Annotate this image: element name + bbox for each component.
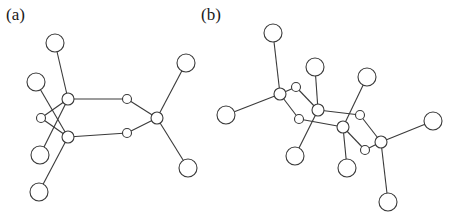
molecular-graph-diagram — [0, 0, 449, 218]
node-b_bottom_mid — [338, 159, 356, 177]
node-a_hub_lower — [62, 131, 74, 143]
node-b_hub3 — [337, 121, 349, 133]
node-a_ring_upper — [123, 95, 132, 104]
node-b_top — [264, 24, 282, 42]
node-b_left — [217, 106, 235, 124]
node-a_hub_right — [151, 112, 163, 124]
node-b_hub4 — [375, 136, 387, 148]
node-b_small5 — [361, 146, 370, 155]
node-b_bottom — [379, 193, 397, 211]
node-a_top_right — [177, 54, 195, 72]
node-a_top — [46, 34, 64, 52]
panel-a-graph — [27, 34, 197, 201]
edge-a_hub_lower-a_ring_lower — [68, 133, 127, 137]
panel-b-graph — [217, 24, 442, 211]
node-a_ring_lower — [123, 129, 132, 138]
node-b_hub1 — [274, 88, 286, 100]
node-a_bottom_right — [179, 159, 197, 177]
node-b_top_mid — [306, 58, 324, 76]
node-b_right — [424, 112, 442, 130]
node-b_hub2 — [312, 104, 324, 116]
node-b_small1 — [292, 83, 301, 92]
node-a_bottom — [30, 183, 48, 201]
node-b_small2 — [295, 115, 304, 124]
node-a_hub_upper — [62, 93, 74, 105]
node-b_lower_left — [286, 147, 304, 165]
node-a_small_left — [37, 114, 46, 123]
node-a_left_upper — [27, 73, 45, 91]
edge-b_small2-b_hub3 — [299, 119, 343, 127]
node-b_small3 — [356, 111, 365, 120]
node-b_top_right — [358, 68, 376, 86]
node-a_left_lower — [31, 146, 49, 164]
